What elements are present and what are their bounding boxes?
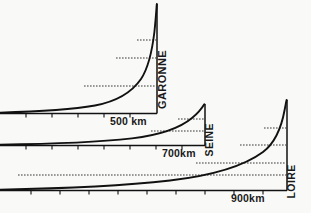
river-profile-figure: GARONNE SEINE LOIRE 500 km 700km 900km xyxy=(0,0,311,213)
garonne-label: GARONNE xyxy=(157,50,168,109)
garonne-curve xyxy=(0,4,157,113)
seine-curve xyxy=(0,104,204,144)
garonne-profile-group xyxy=(0,4,157,117)
seine-label: SEINE xyxy=(204,123,215,157)
garonne-dotted-lines xyxy=(84,40,156,86)
seine-dotted-lines xyxy=(151,119,204,131)
seine-distance-label: 700km xyxy=(162,148,196,159)
loire-distance-label: 900km xyxy=(231,193,265,204)
garonne-distance-label: 500 km xyxy=(110,116,147,127)
loire-label: LOIRE xyxy=(286,164,297,198)
